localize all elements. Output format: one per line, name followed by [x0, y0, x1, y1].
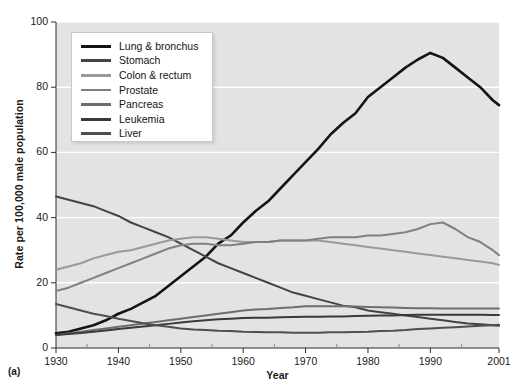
legend-item-pancreas: Pancreas: [72, 97, 212, 112]
legend-swatch-icon: [81, 132, 111, 135]
y-tick-label-0: 0: [22, 341, 48, 353]
x-tick-label-1930: 1930: [36, 355, 76, 367]
legend-item-label: Stomach: [119, 55, 160, 66]
legend-item-lung-bronchus: Lung & bronchus: [72, 39, 212, 54]
x-tick-label-1980: 1980: [348, 355, 388, 367]
legend-swatch-icon: [81, 45, 111, 48]
legend-swatch-icon: [81, 103, 111, 106]
y-tick-label-60: 60: [22, 145, 48, 157]
legend-item-label: Liver: [119, 128, 142, 139]
x-tick-label-2001: 2001: [479, 355, 519, 367]
x-axis-title: Year: [56, 369, 499, 381]
legend-item-label: Pancreas: [119, 99, 163, 110]
y-tick-label-80: 80: [22, 80, 48, 92]
legend-item-label: Lung & bronchus: [119, 41, 198, 52]
x-tick-label-1960: 1960: [223, 355, 263, 367]
legend-item-liver: Liver: [72, 127, 212, 142]
legend-swatch-icon: [81, 118, 111, 121]
legend-item-stomach: Stomach: [72, 54, 212, 69]
y-tick-label-100: 100: [22, 15, 48, 27]
legend-item-label: Colon & rectum: [119, 70, 191, 81]
legend-item-leukemia: Leukemia: [72, 112, 212, 127]
figure-panel: Rate per 100,000 male population Year 02…: [0, 0, 523, 389]
legend-item-prostate: Prostate: [72, 83, 212, 98]
legend-item-label: Prostate: [119, 85, 158, 96]
panel-label: (a): [8, 366, 20, 377]
y-tick-label-40: 40: [22, 211, 48, 223]
y-tick-label-20: 20: [22, 276, 48, 288]
x-tick-label-1950: 1950: [161, 355, 201, 367]
x-tick-label-1990: 1990: [410, 355, 450, 367]
y-axis-title: Rate per 100,000 male population: [13, 79, 25, 289]
legend-item-colon-rectum: Colon & rectum: [72, 68, 212, 83]
x-tick-label-1970: 1970: [286, 355, 326, 367]
legend-swatch-icon: [81, 74, 111, 77]
legend-item-label: Leukemia: [119, 114, 165, 125]
chart-legend: Lung & bronchusStomachColon & rectumPros…: [71, 32, 213, 142]
x-tick-label-1940: 1940: [98, 355, 138, 367]
legend-swatch-icon: [81, 59, 111, 62]
legend-swatch-icon: [81, 89, 111, 92]
